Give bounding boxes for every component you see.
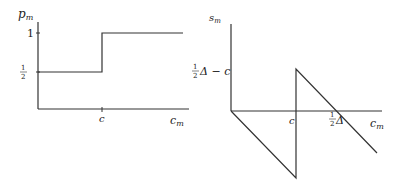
right-xlabel: cm [370,117,384,131]
left-ytick-half-num: 1 [21,64,25,72]
left-ylabel: pm [18,7,34,22]
right-ytick-half-num: 1 [193,63,197,71]
left-ytick-1-label: 1 [27,27,34,40]
right-xtick-delta: Δ [335,114,344,127]
left-ytick-half-den: 2 [21,73,25,81]
right-ylabel: sm [209,12,221,25]
right-sawtooth-curve [231,69,377,178]
right-xtick-half-den: 2 [330,120,334,128]
diagram-canvas: pm 1 1 2 c cm sm 1 2 Δ − c c 1 2 Δ cm [0,0,403,189]
right-ytick-half-den: 2 [193,72,197,80]
right-ytick-rest: Δ − c [199,65,230,78]
left-step-curve [38,33,183,72]
left-chart: pm 1 1 2 c cm [18,7,189,128]
right-xtick-c-label: c [289,115,295,126]
right-xtick-half-num: 1 [330,111,334,119]
right-chart: sm 1 2 Δ − c c 1 2 Δ cm [192,12,384,178]
left-xlabel: cm [170,114,184,128]
left-xtick-c-label: c [99,113,105,124]
